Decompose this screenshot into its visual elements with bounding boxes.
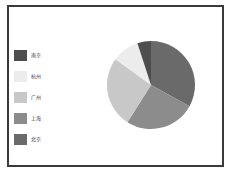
- legend-item-nanjing: 南京: [14, 48, 54, 66]
- pie-chart: [106, 40, 196, 130]
- legend-swatch: [14, 113, 27, 124]
- legend-label: 南京: [31, 52, 41, 59]
- legend-swatch: [14, 134, 27, 145]
- legend-item-beijing: 北京: [14, 132, 54, 150]
- legend-label: 杭州: [31, 73, 41, 80]
- legend-label: 上海: [31, 115, 41, 122]
- legend-label: 北京: [31, 136, 41, 143]
- legend-swatch: [14, 71, 27, 82]
- legend-item-shanghai: 上海: [14, 111, 54, 129]
- legend-swatch: [14, 92, 27, 103]
- legend-label: 广州: [31, 94, 41, 101]
- legend-item-hangzhou: 杭州: [14, 69, 54, 87]
- legend-item-guangzhou: 广州: [14, 90, 54, 108]
- chart-legend: 南京 杭州 广州 上海 北京: [14, 48, 54, 153]
- legend-swatch: [14, 50, 27, 61]
